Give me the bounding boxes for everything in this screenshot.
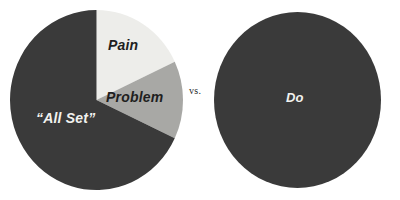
slice-label-problem: Problem [106,90,163,104]
figure-canvas: Pain Problem “All Set” Do vs. [0,0,400,200]
slice-label-do: Do [286,91,304,104]
slice-label-pain: Pain [108,38,138,52]
versus-label: vs. [189,85,201,96]
slice-label-all-set: “All Set” [36,111,95,125]
